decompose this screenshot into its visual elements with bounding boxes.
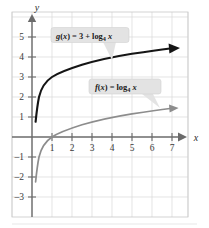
x-axis-label: x xyxy=(193,132,199,143)
f-callout-text: f(x) = log4 x xyxy=(95,83,137,93)
coordinate-plot: 1 2 3 4 5 6 7 5 4 3 2 1 –1 –2 –3 x y xyxy=(0,0,209,228)
y-tick-label: 5 xyxy=(19,32,24,42)
curve-f-arrowhead xyxy=(169,104,179,112)
f-callout-tail xyxy=(142,94,160,108)
y-axis-arrowhead xyxy=(28,14,36,22)
y-tick-label: 2 xyxy=(19,92,24,102)
y-tick-label: –1 xyxy=(14,152,25,162)
x-tick-label: 6 xyxy=(150,143,155,153)
y-axis-label: y xyxy=(34,2,40,13)
f-callout: f(x) = log4 x xyxy=(89,79,161,108)
curve-g-arrowhead xyxy=(169,44,180,54)
y-tick-label: 1 xyxy=(19,112,24,122)
g-callout: g(x) = 3 + log4 x xyxy=(51,28,129,61)
x-tick-label: 5 xyxy=(130,143,135,153)
x-axis-arrowhead xyxy=(178,133,187,142)
y-tick-label: 4 xyxy=(19,52,24,62)
x-tick-labels: 1 2 3 4 5 6 7 xyxy=(50,143,175,153)
curve-f-group xyxy=(36,104,179,181)
y-tick-label: 3 xyxy=(19,72,24,82)
axes xyxy=(12,14,187,217)
x-tick-label: 4 xyxy=(110,143,115,153)
y-tick-label: –3 xyxy=(14,192,25,202)
x-tick-label: 3 xyxy=(90,143,95,153)
x-tick-label: 1 xyxy=(50,143,55,153)
log-graph-figure: 1 2 3 4 5 6 7 5 4 3 2 1 –1 –2 –3 x y xyxy=(0,0,209,228)
x-tick-label: 2 xyxy=(70,143,75,153)
x-tick-label: 7 xyxy=(170,143,175,153)
y-tick-label: –2 xyxy=(14,172,25,182)
